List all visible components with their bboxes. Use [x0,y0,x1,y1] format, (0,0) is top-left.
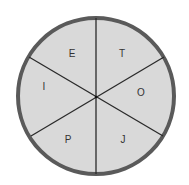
sector-circle-diagram: E T O J P I [0,0,189,185]
sector-label-right: O [137,87,145,98]
sector-label-bottom-right: J [121,134,126,145]
sector-label-bottom-left: P [65,134,72,145]
center-point [95,96,98,99]
sector-label-top-left: E [69,48,76,59]
sector-label-top-right: T [119,48,125,59]
sector-label-left: I [43,81,46,92]
